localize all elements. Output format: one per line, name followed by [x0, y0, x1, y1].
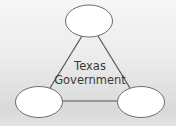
node-top [66, 5, 113, 37]
center-label-line2: Government [54, 73, 126, 87]
triangle-diagram: Texas Government [0, 0, 176, 126]
center-label-line1: Texas [73, 59, 106, 73]
node-bottom-right [118, 87, 165, 118]
diagram-canvas: Texas Government [0, 0, 176, 126]
node-bottom-left [16, 87, 63, 118]
